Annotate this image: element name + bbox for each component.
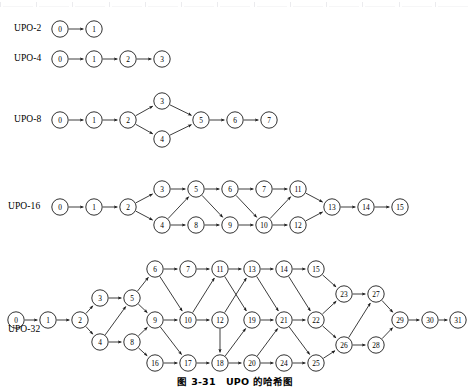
graph-node: 29	[392, 312, 408, 328]
graph-edge	[136, 211, 153, 220]
graph-node: 13	[324, 199, 340, 215]
node-label: 6	[228, 185, 232, 194]
graph-node: 6	[147, 261, 163, 277]
graph-node: 9	[222, 217, 238, 233]
graph-edge	[306, 212, 323, 221]
node-label: 29	[396, 316, 404, 325]
graph-edge	[225, 329, 245, 356]
graph-node: 0	[52, 51, 68, 67]
graph-edge	[170, 105, 192, 116]
node-label: 7	[267, 116, 271, 125]
graph-node: 0	[52, 112, 68, 128]
graph-node: 27	[368, 286, 384, 302]
graph-node: 2	[120, 51, 136, 67]
graph-node: 5	[188, 181, 204, 197]
graph-node: 12	[290, 217, 306, 233]
node-label: 31	[454, 316, 462, 325]
node-label: 2	[126, 55, 130, 64]
graph-edge	[323, 275, 337, 287]
node-label: 7	[186, 265, 190, 274]
graph-node: 7	[180, 261, 196, 277]
node-label: 4	[160, 135, 164, 144]
graph-node: 19	[244, 312, 260, 328]
graph-node: 10	[256, 217, 272, 233]
node-label: 14	[280, 265, 288, 274]
node-label: 6	[153, 265, 157, 274]
node-label: 5	[194, 185, 198, 194]
node-label: 0	[58, 55, 62, 64]
graph-edge	[323, 326, 337, 338]
graph-edge	[86, 306, 93, 314]
node-label: 21	[280, 316, 288, 325]
graph-node: 4	[154, 131, 170, 147]
node-label: 15	[312, 265, 320, 274]
graph-node: 8	[188, 217, 204, 233]
node-label: 2	[78, 316, 82, 325]
graph-edge	[138, 304, 147, 313]
node-label: 17	[184, 359, 192, 368]
node-label: 9	[153, 316, 157, 325]
node-label: 3	[160, 97, 164, 106]
graph-node: 1	[86, 199, 102, 215]
node-label: 4	[160, 221, 164, 230]
graph-edge	[160, 327, 181, 355]
node-label: 1	[46, 316, 50, 325]
graph-edge	[306, 193, 323, 202]
graph-node: 4	[154, 217, 170, 233]
row-label-upo-16: UPO-16	[8, 201, 40, 211]
graph-node: 28	[368, 337, 384, 353]
graph-edge	[136, 124, 153, 134]
node-label: 1	[92, 203, 96, 212]
graph-node: 21	[276, 312, 292, 328]
node-label: 26	[340, 341, 348, 350]
graph-edge	[225, 276, 247, 311]
node-label: 20	[248, 359, 256, 368]
graph-node: 3	[154, 93, 170, 109]
graph-node: 22	[308, 312, 324, 328]
node-label: 11	[294, 185, 301, 194]
node-label: 10	[260, 221, 268, 230]
node-label: 11	[216, 265, 223, 274]
graph-node: 3	[154, 51, 170, 67]
graph-node: 31	[450, 312, 466, 328]
graph-node: 15	[392, 199, 408, 215]
row-label-upo-2: UPO-2	[14, 23, 41, 33]
node-label: 4	[98, 338, 102, 347]
graph-edge	[257, 276, 279, 311]
graph-edge	[323, 351, 335, 359]
node-label: 3	[98, 294, 102, 303]
graph-node: 2	[72, 312, 88, 328]
node-label: 0	[58, 203, 62, 212]
graph-node: 6	[227, 112, 243, 128]
graph-edge	[236, 195, 257, 217]
graph-node: 13	[244, 261, 260, 277]
node-label: 8	[194, 221, 198, 230]
node-label: 13	[248, 265, 256, 274]
graph-node: 7	[261, 112, 277, 128]
node-label: 14	[362, 203, 370, 212]
graph-edge	[349, 303, 371, 338]
node-label: 1	[92, 25, 96, 34]
node-label: 22	[312, 316, 320, 325]
figure-page: 0101230123456701234567891011121314150123…	[0, 0, 471, 392]
graph-edge	[138, 327, 147, 336]
node-label: 16	[151, 359, 159, 368]
node-label: 12	[216, 316, 224, 325]
graph-node: 16	[147, 355, 163, 371]
graph-node: 15	[308, 261, 324, 277]
node-label: 1	[92, 55, 96, 64]
node-label: 23	[340, 290, 348, 299]
row-label-upo-4: UPO-4	[14, 53, 41, 63]
row-label-upo-32: UPO-32	[8, 324, 40, 334]
node-label: 3	[160, 55, 164, 64]
graph-edge	[168, 197, 189, 219]
graph-node: 1	[86, 51, 102, 67]
node-label: 15	[396, 203, 404, 212]
graph-node: 5	[124, 290, 140, 306]
node-label: 1	[92, 116, 96, 125]
graph-edge	[160, 276, 182, 311]
graph-edge	[105, 307, 126, 335]
graph-node: 26	[336, 337, 352, 353]
graph-edge	[289, 327, 309, 354]
graph-edge	[193, 278, 215, 313]
